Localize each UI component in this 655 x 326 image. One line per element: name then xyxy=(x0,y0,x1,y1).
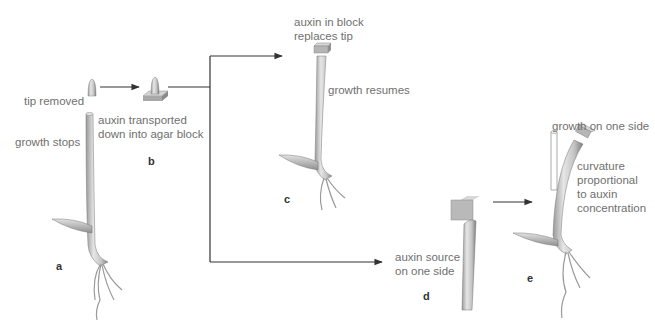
caption-auxin-in-block-2: replaces tip xyxy=(294,30,353,44)
caption-auxin-transported-1: auxin transported xyxy=(98,114,187,128)
panel-label-c: c xyxy=(284,193,290,205)
seedling-e-curved xyxy=(513,123,595,318)
tip-on-agar-block-icon xyxy=(143,77,168,101)
caption-curvature-3: to auxin xyxy=(577,188,617,202)
caption-growth-resumes: growth resumes xyxy=(328,84,410,98)
caption-auxin-source-1: auxin source xyxy=(395,251,460,265)
caption-growth-stops: growth stops xyxy=(15,136,80,150)
caption-curvature-4: concentration xyxy=(577,202,646,216)
caption-auxin-in-block-1: auxin in block xyxy=(294,16,364,30)
panel-label-a: a xyxy=(56,260,62,272)
caption-curvature-2: proportional xyxy=(577,174,638,188)
removed-tip-icon xyxy=(88,79,96,96)
caption-growth-one-side: growth on one side xyxy=(552,120,649,134)
panel-label-e: e xyxy=(527,272,533,284)
diagram-artwork xyxy=(0,0,655,326)
panel-label-b: b xyxy=(148,155,155,167)
caption-auxin-source-2: on one side xyxy=(395,265,454,279)
caption-curvature-1: curvature xyxy=(577,160,625,174)
caption-auxin-transported-2: down into agar block xyxy=(98,128,203,142)
panel-label-d: d xyxy=(423,290,430,302)
caption-tip-removed: tip removed xyxy=(24,95,84,109)
seedling-c-with-agar-block xyxy=(279,43,345,210)
